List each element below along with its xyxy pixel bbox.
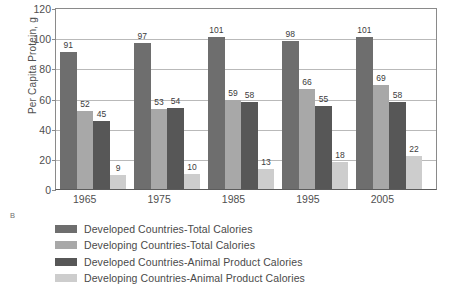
legend-label: Developing Countries-Total Calories — [84, 239, 255, 251]
bar-value-label: 10 — [187, 162, 196, 172]
bar-value-label: 22 — [409, 144, 418, 154]
bar-slot: 22 — [406, 9, 423, 189]
bar-slot: 59 — [225, 9, 242, 189]
bar-slot: 18 — [332, 9, 349, 189]
y-tick-label: 100 — [33, 33, 51, 45]
bar-value-label: 45 — [97, 109, 106, 119]
y-tick-mark — [52, 190, 56, 191]
bar: 13 — [258, 169, 275, 189]
bar: 54 — [167, 108, 184, 189]
bar-group: 97535410 — [134, 9, 208, 189]
y-tick-label: 80 — [39, 63, 51, 75]
bar-group: 98665518 — [282, 9, 356, 189]
bar-slot: 97 — [134, 9, 151, 189]
bar: 97 — [134, 43, 151, 189]
plot-area: 020406080100120 915245997535410101595813… — [55, 8, 437, 190]
legend-item[interactable]: Developed Countries-Total Calories — [55, 221, 305, 236]
bar: 58 — [389, 102, 406, 189]
bar-value-label: 53 — [154, 97, 163, 107]
bar-value-label: 58 — [393, 90, 402, 100]
legend-swatch — [55, 274, 77, 282]
bar: 52 — [77, 111, 94, 189]
bar-slot: 69 — [373, 9, 390, 189]
bar: 9 — [110, 175, 127, 189]
y-tick-label: 60 — [39, 94, 51, 106]
legend-label: Developed Countries-Animal Product Calor… — [84, 256, 302, 268]
bar: 22 — [406, 156, 423, 189]
bar-value-label: 101 — [357, 25, 371, 35]
bar: 101 — [208, 37, 225, 189]
bar: 69 — [373, 85, 390, 189]
bar: 10 — [184, 174, 201, 189]
bar-value-label: 91 — [64, 40, 73, 50]
bar: 91 — [60, 52, 77, 189]
bar: 66 — [299, 89, 316, 189]
bar-groups: 9152459975354101015958139866551810169582… — [56, 9, 436, 189]
bar-slot: 9 — [110, 9, 127, 189]
bar: 101 — [356, 37, 373, 189]
y-axis-title: Per Capita Protein, g — [27, 0, 38, 146]
bar: 53 — [151, 109, 168, 189]
legend-label: Developing Countries-Animal Product Calo… — [84, 272, 305, 284]
bar-slot: 52 — [77, 9, 94, 189]
bar: 98 — [282, 41, 299, 189]
x-tick-label: 1965 — [59, 193, 133, 205]
bar-value-label: 59 — [228, 88, 237, 98]
bar-slot: 13 — [258, 9, 275, 189]
legend-swatch — [55, 225, 77, 233]
bar-value-label: 18 — [335, 150, 344, 160]
bar-value-label: 58 — [245, 90, 254, 100]
y-tick-label: 0 — [45, 184, 51, 196]
bar-slot: 45 — [93, 9, 110, 189]
x-tick-label: 2005 — [357, 193, 431, 205]
bar: 59 — [225, 100, 242, 189]
y-tick-label: 20 — [39, 154, 51, 166]
legend-item[interactable]: Developed Countries-Animal Product Calor… — [55, 254, 305, 269]
bar-slot: 66 — [299, 9, 316, 189]
bar-group: 101695822 — [356, 9, 430, 189]
bar: 18 — [332, 162, 349, 189]
bar-value-label: 97 — [138, 31, 147, 41]
panel-letter: B — [10, 211, 15, 220]
bar-slot: 58 — [241, 9, 258, 189]
bar: 45 — [93, 121, 110, 189]
y-tick-label: 120 — [33, 3, 51, 15]
legend-swatch — [55, 258, 77, 266]
bar-slot: 54 — [167, 9, 184, 189]
bar-value-label: 52 — [80, 99, 89, 109]
chart-legend: Developed Countries-Total CaloriesDevelo… — [55, 221, 305, 286]
bar-value-label: 66 — [302, 77, 311, 87]
legend-item[interactable]: Developing Countries-Total Calories — [55, 238, 305, 253]
bar-value-label: 54 — [171, 96, 180, 106]
bar-slot: 58 — [389, 9, 406, 189]
x-axis-tick-labels: 19651975198519952005 — [55, 193, 437, 205]
bar-group: 9152459 — [60, 9, 134, 189]
bar-group: 101595813 — [208, 9, 282, 189]
bar-value-label: 69 — [376, 73, 385, 83]
x-tick-label: 1995 — [282, 193, 356, 205]
x-tick-label: 1985 — [208, 193, 282, 205]
bar-slot: 10 — [184, 9, 201, 189]
bar: 55 — [315, 106, 332, 189]
bar-slot: 55 — [315, 9, 332, 189]
bar-value-label: 13 — [261, 157, 270, 167]
bar-value-label: 9 — [116, 163, 121, 173]
x-tick-label: 1975 — [133, 193, 207, 205]
y-tick-label: 40 — [39, 124, 51, 136]
bar-slot: 101 — [208, 9, 225, 189]
bar: 58 — [241, 102, 258, 189]
legend-label: Developed Countries-Total Calories — [84, 223, 253, 235]
bar-value-label: 98 — [286, 29, 295, 39]
bar-slot: 91 — [60, 9, 77, 189]
bar-value-label: 101 — [209, 25, 223, 35]
bar-slot: 98 — [282, 9, 299, 189]
bar-value-label: 55 — [319, 94, 328, 104]
chart-figure: Per Capita Protein, g 020406080100120 91… — [0, 0, 454, 289]
legend-item[interactable]: Developing Countries-Animal Product Calo… — [55, 271, 305, 286]
bar-slot: 101 — [356, 9, 373, 189]
bar-slot: 53 — [151, 9, 168, 189]
legend-swatch — [55, 241, 77, 249]
